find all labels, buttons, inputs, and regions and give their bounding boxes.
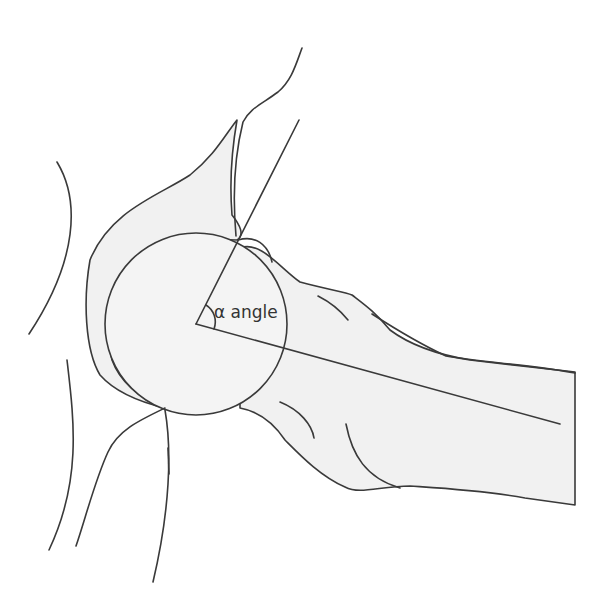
alpha-angle-label: α angle: [214, 302, 278, 322]
iliac-outline: [234, 48, 302, 236]
hip-alpha-angle-diagram: [0, 0, 602, 601]
ischium-line: [153, 410, 169, 582]
femur-neck-shaft: [240, 247, 575, 505]
left-curve-lower: [49, 360, 73, 550]
left-curve-upper: [29, 162, 71, 334]
lower-pelvis-curve: [76, 408, 165, 546]
ischium-line-short: [168, 448, 169, 474]
